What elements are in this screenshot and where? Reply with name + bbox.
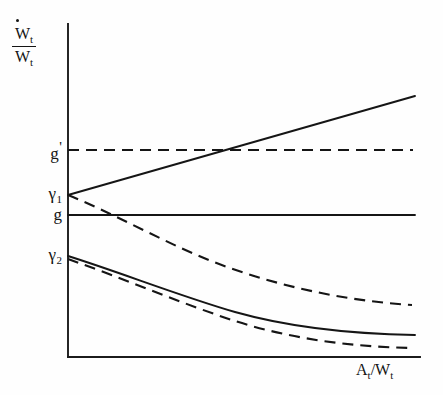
y-axis-label-denominator: Wt	[12, 47, 36, 68]
curve-rising-solid-gamma1	[68, 96, 415, 195]
y-tick-label-gamma-2: γ2	[24, 246, 62, 266]
curve-decaying-dashed-gamma1	[68, 195, 412, 305]
dot-accent-icon	[16, 19, 19, 22]
y-axis-label-numerator: Wt	[12, 26, 36, 47]
x-axis-label: At/Wt	[356, 362, 393, 381]
y-axis-label: Wt Wt	[12, 26, 36, 68]
y-tick-label-g: g	[24, 206, 62, 223]
figure-root: Wt Wt g' γ1 g γ2 At/Wt	[0, 0, 443, 395]
y-tick-label-gamma-1: γ1	[24, 185, 62, 205]
y-tick-label-g-prime: g'	[24, 140, 62, 162]
plot-canvas	[0, 0, 443, 395]
